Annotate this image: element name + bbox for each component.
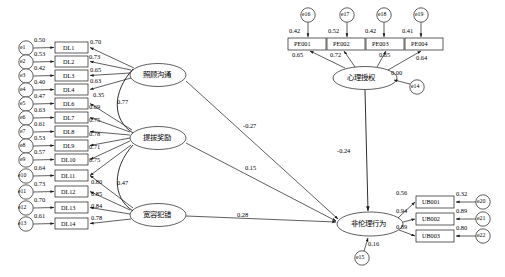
mediator-label: 心理授权 (347, 74, 375, 81)
indicator-label-dl3: DL3 (63, 73, 74, 79)
error-label-e21: e21 (477, 216, 485, 222)
error-variance-e12: 0.70 (34, 197, 45, 203)
loading-pe004: 0.64 (416, 55, 427, 61)
indicator-label-dl1: DL1 (63, 45, 74, 51)
error-circles-left (19, 41, 33, 231)
error-variance-e21: 0.89 (456, 208, 467, 214)
error-label-e19: e19 (415, 12, 423, 18)
correlation-23: 0.47 (117, 180, 128, 186)
loading-ub001: 0.56 (396, 190, 407, 196)
loading-dl1: 0.70 (90, 39, 101, 45)
loading-dl12: 0.80 (91, 179, 102, 185)
indicator-label-dl4: DL4 (63, 87, 74, 93)
loading-pe002: 0.72 (330, 52, 341, 58)
loading-dl14b: 0.78 (91, 215, 102, 221)
indicator-label-dl9: DL9 (63, 143, 74, 149)
indicator-label-dl10: DL10 (61, 157, 75, 163)
indicator-label-dl11: DL11 (61, 173, 75, 179)
indicator-label-dl2: DL2 (63, 59, 74, 65)
error-label-e6: e6 (20, 115, 25, 121)
indicator-label-pe003: PE003 (372, 41, 389, 47)
error-label-e4: e4 (20, 87, 25, 93)
error-variance-e5: 0.47 (34, 93, 45, 99)
error-label-e22: e22 (477, 233, 485, 239)
covariance-arc-23 (117, 145, 133, 211)
indicator-label-ub002: UB002 (422, 216, 440, 222)
error-variance-e6: 0.63 (34, 107, 45, 113)
indicator-label-pe001: PE001 (294, 41, 311, 47)
error-variance-e17: 0.52 (328, 28, 339, 34)
indicator-label-ub001: UB001 (422, 199, 440, 205)
loading-arrows-f2 (90, 104, 132, 176)
error-label-e11: e11 (18, 189, 26, 195)
error-variance-e1: 0.50 (34, 37, 45, 43)
error-label-e8: e8 (20, 143, 25, 149)
error-label-e2: e2 (20, 59, 25, 65)
structural-path-1: -0.27 (243, 123, 256, 129)
error-variance-e2: 0.53 (34, 51, 45, 57)
indicator-label-dl6: DL6 (63, 101, 74, 107)
factor-label-2: 提拔奖励 (143, 134, 171, 141)
error-variance-e10: 0.64 (34, 165, 45, 171)
loading-dl6: 0.35 (93, 92, 104, 98)
error-variance-e8: 0.53 (34, 135, 45, 141)
error-variance-e22: 0.80 (456, 225, 467, 231)
error-variance-e7: 0.61 (34, 121, 45, 127)
error-variance-e4: 0.40 (34, 79, 45, 85)
error-label-e18: e18 (378, 12, 386, 18)
loading-dl13: 0.85 (91, 191, 102, 197)
error-label-e14: e14 (411, 84, 419, 90)
indicator-label-dl13: DL13 (61, 205, 75, 211)
loading-pe001: 0.65 (292, 52, 303, 58)
error-label-e7: e7 (20, 129, 25, 135)
error-circles-mediator (301, 8, 428, 22)
error-label-e5: e5 (20, 101, 25, 107)
loading-dl2: 0.73 (89, 54, 100, 60)
error-variance-e20: 0.32 (456, 191, 467, 197)
path-mediator-outcome (365, 90, 368, 211)
error-label-e3: e3 (20, 73, 25, 79)
error-variance-e11: 0.73 (34, 181, 45, 187)
indicator-label-pe004: PE004 (411, 41, 428, 47)
path-f2-outcome (186, 143, 336, 221)
loading-dl9: 0.78 (89, 131, 100, 137)
structural-path-2: 0.15 (245, 165, 256, 171)
indicator-label-dl14: DL14 (61, 221, 75, 227)
indicator-label-ub003: UB003 (422, 233, 440, 239)
factor-label-1: 照顾沟通 (143, 71, 171, 78)
disturbance-arrow-e14 (394, 80, 410, 84)
path-f1-outcome (186, 81, 338, 219)
loading-ub003: 0.89 (396, 224, 407, 230)
error-variance-e16: 0.42 (289, 28, 300, 34)
loading-dl11: 0.75 (89, 157, 100, 163)
indicator-boxes-left (55, 42, 88, 229)
loading-dl7: 0.69 (89, 104, 100, 110)
indicator-label-dl8: DL8 (63, 129, 74, 135)
loading-pe003: 0.65 (379, 52, 390, 58)
indicator-label-dl12: DL12 (61, 189, 75, 195)
error-label-e13: e13 (18, 221, 26, 227)
error-label-e9: e9 (20, 157, 25, 163)
error-variance-e13: 0.61 (34, 213, 45, 219)
loading-dl3: 0.65 (90, 67, 101, 73)
loading-dl10: 0.71 (89, 144, 100, 150)
error-label-e16: e16 (302, 12, 310, 18)
loading-dl4: 0.63 (90, 78, 101, 84)
loading-dl8: 0.75 (89, 117, 100, 123)
loading-ub002: 0.94 (396, 208, 407, 214)
path-f3-outcome (186, 216, 336, 222)
correlation-12: 0.77 (117, 99, 128, 105)
loading-dl14: 0.84 (91, 203, 102, 209)
error-label-e15: e15 (356, 255, 364, 261)
error-variance-e9: 0.57 (34, 149, 45, 155)
error-variance-e18: 0.42 (365, 28, 376, 34)
indicator-label-pe002: PE002 (333, 41, 350, 47)
outcome-label: 非伦理行为 (351, 220, 386, 227)
error-label-e20: e20 (477, 199, 485, 205)
indicator-label-dl7: DL7 (63, 115, 74, 121)
structural-path-3: 0.28 (237, 212, 248, 218)
error-variance-e19: 0.41 (402, 28, 413, 34)
disturbance-value-e14: 0.00 (391, 70, 402, 76)
disturbance-value-e15: 0.16 (368, 241, 379, 247)
sem-path-diagram: e1 e2 e3 e4 e5 e6 e7 e8 e9 e10 e11 e12 e… (0, 0, 505, 277)
